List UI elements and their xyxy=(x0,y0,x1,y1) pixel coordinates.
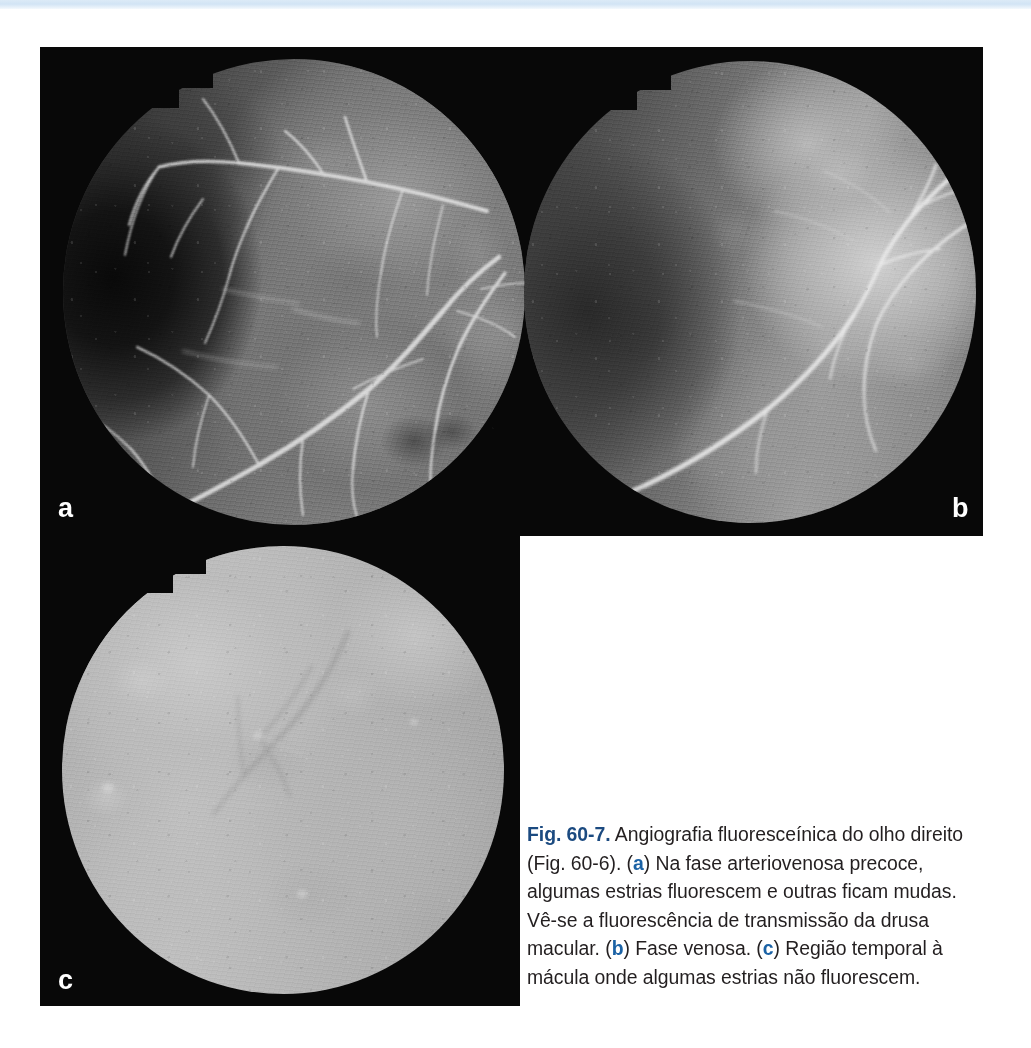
fundus-image-a xyxy=(63,59,525,525)
panel-letter-c: c xyxy=(58,967,73,994)
figure-caption: Fig. 60-7. Angiografia fluoresceínica do… xyxy=(527,820,979,992)
caption-ref-c: c xyxy=(763,937,774,959)
fundus-image-b xyxy=(524,61,976,523)
fundus-image-c xyxy=(62,546,504,994)
fundus-a-notch-lower xyxy=(63,59,213,88)
caption-text-b: ) Fase venosa. ( xyxy=(623,937,762,959)
page-top-scan-strip xyxy=(0,0,1031,9)
fundus-c-angioid-streaks xyxy=(62,546,504,994)
panel-letter-b: b xyxy=(952,495,969,522)
fundus-b-notch-lower xyxy=(524,61,671,90)
figure-number-label: Fig. 60-7. xyxy=(527,823,611,845)
fundus-disc-b xyxy=(524,61,976,523)
caption-ref-a: a xyxy=(633,852,644,874)
fundus-disc-a xyxy=(63,59,525,525)
fundus-b-retinal-vessels xyxy=(524,61,976,523)
fundus-c-notch-lower xyxy=(62,546,206,574)
fundus-disc-c xyxy=(62,546,504,994)
caption-ref-b: b xyxy=(612,937,624,959)
fundus-a-retinal-vessels xyxy=(63,59,525,525)
panel-letter-a: a xyxy=(58,495,73,522)
